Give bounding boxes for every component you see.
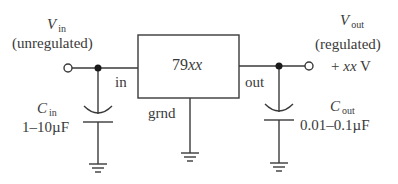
input-voltage-symbol: V bbox=[47, 16, 56, 32]
input-junction-dot-icon bbox=[95, 65, 102, 72]
input-voltage-label: Vin bbox=[47, 17, 66, 34]
pin-label-out: out bbox=[245, 75, 264, 90]
output-terminal-icon bbox=[305, 62, 313, 70]
output-capacitor-value: 0.01–0.1µF bbox=[300, 118, 370, 133]
input-ground-icon bbox=[89, 164, 107, 172]
regulator-circuit-diagram: Vin (unregulated) Vout (regulated) + xx … bbox=[0, 0, 398, 184]
input-terminal-icon bbox=[64, 64, 72, 72]
output-junction-dot-icon bbox=[276, 63, 283, 70]
regulator-name: 79xx bbox=[172, 57, 202, 73]
regulator-ground-icon bbox=[181, 153, 199, 161]
output-capacitor-label: Cout bbox=[330, 99, 355, 116]
pin-label-in: in bbox=[115, 75, 127, 90]
output-description: (regulated) bbox=[315, 37, 381, 52]
output-ground-icon bbox=[270, 163, 288, 171]
output-voltage-value: + xx V bbox=[331, 59, 371, 74]
input-capacitor-value: 1–10µF bbox=[22, 120, 69, 135]
output-voltage-subscript: out bbox=[351, 19, 364, 30]
output-voltage-symbol: V bbox=[340, 12, 349, 28]
pin-label-ground: grnd bbox=[148, 106, 176, 121]
output-voltage-label: Vout bbox=[340, 13, 364, 30]
input-capacitor-label: Cin bbox=[37, 101, 57, 118]
input-voltage-subscript: in bbox=[58, 23, 66, 34]
input-description: (unregulated) bbox=[12, 36, 93, 51]
